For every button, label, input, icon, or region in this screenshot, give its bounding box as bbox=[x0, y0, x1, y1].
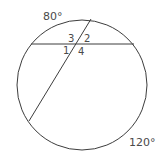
arc-label-120: 120° bbox=[129, 136, 156, 149]
angle-label-4: 4 bbox=[78, 46, 84, 57]
circle bbox=[17, 20, 147, 150]
angle-label-1: 1 bbox=[63, 45, 69, 56]
angle-label-3: 3 bbox=[68, 33, 74, 44]
angle-label-2: 2 bbox=[84, 33, 90, 44]
arc-label-80: 80° bbox=[43, 10, 63, 23]
slanted-chord bbox=[29, 19, 91, 121]
circle-chords-diagram: 80° 120° 3 2 1 4 bbox=[0, 0, 159, 162]
